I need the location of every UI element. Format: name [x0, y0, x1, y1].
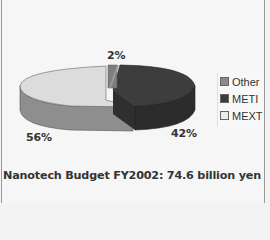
label-mext-pct: 56%: [26, 131, 52, 144]
chart-title: Nanotech Budget FY2002: 74.6 billion yen: [0, 169, 264, 182]
slice-meti: [113, 65, 195, 130]
legend-label-meti: METI: [232, 93, 258, 105]
label-meti-pct: 42%: [171, 127, 197, 140]
legend-item-mext: MEXT: [218, 107, 264, 124]
legend-label-other: Other: [232, 76, 260, 88]
legend-swatch-meti: [220, 94, 229, 103]
legend-swatch-other: [220, 77, 229, 86]
legend-label-mext: MEXT: [232, 110, 263, 122]
label-other-pct: 2%: [107, 49, 125, 62]
legend-item-other: Other: [218, 73, 264, 90]
chart-legend: Other METI MEXT: [217, 73, 264, 127]
legend-swatch-mext: [220, 111, 229, 120]
legend-item-meti: METI: [218, 90, 264, 107]
